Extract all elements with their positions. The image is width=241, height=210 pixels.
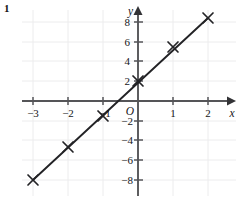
x-tick-label: 1 [170, 107, 176, 119]
x-axis-label: x [228, 107, 235, 119]
x-axis-tick-labels: −3 −2 −1 1 2 [27, 107, 211, 119]
y-tick-label: 4 [125, 55, 131, 67]
x-tick-label: −2 [62, 107, 74, 119]
x-tick-label: −3 [27, 107, 39, 119]
y-axis-label: y [127, 5, 134, 18]
y-tick-label: −6 [121, 154, 133, 166]
y-tick-label: 8 [125, 16, 131, 28]
y-tick-label: −4 [121, 134, 133, 146]
y-tick-label: 2 [125, 75, 131, 87]
figure-container: 1 [0, 0, 241, 210]
y-tick-label: 6 [125, 36, 131, 48]
y-tick-label: −8 [121, 174, 133, 186]
origin-label: O [126, 105, 135, 117]
y-axis-arrowhead [134, 6, 143, 15]
line-chart: −3 −2 −1 1 2 8 6 4 2 −2 −4 −6 −8 O y x [0, 0, 241, 210]
x-tick-label: −1 [99, 107, 111, 119]
x-tick-label: 2 [205, 107, 211, 119]
x-axis-arrowhead [227, 97, 236, 106]
figure-number-label: 1 [4, 3, 10, 14]
